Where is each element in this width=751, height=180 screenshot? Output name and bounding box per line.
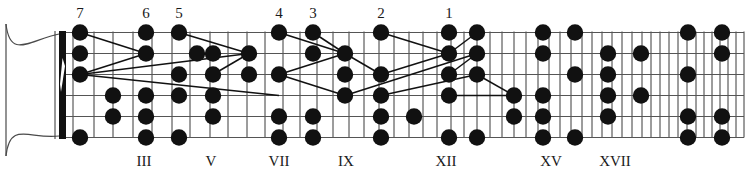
dot-s1-f15[interactable] [469,24,485,40]
note-dots-group [72,24,730,145]
dot-s2-f4[interactable] [138,45,154,61]
dot-s4-f20[interactable] [600,87,616,103]
link-g1 [381,33,449,54]
finger-number-labels: 7654321 [76,5,453,21]
dot-s5-f23[interactable] [680,108,696,124]
dot-s6-f19[interactable] [567,129,583,145]
dot-s6-f4[interactable] [138,129,154,145]
dot-s2-f18[interactable] [535,45,551,61]
dot-s5-f13[interactable] [406,108,422,124]
dot-s3-f5[interactable] [171,66,187,82]
finger-label-2: 2 [377,5,385,21]
dot-s2-f8[interactable] [241,45,257,61]
position-label-XII: XII [436,153,457,169]
dot-s3-f15[interactable] [469,66,485,82]
dot-s6-f23[interactable] [680,129,696,145]
dot-s3-f14[interactable] [441,66,457,82]
dot-s4-f11[interactable] [337,87,353,103]
dot-s2-f20[interactable] [600,45,616,61]
dot-s4-f21[interactable] [633,87,649,103]
dot-s3-f9[interactable] [271,66,287,82]
dot-s3-f7[interactable] [205,66,221,82]
position-label-XV: XV [540,153,562,169]
dot-s1-f5[interactable] [171,24,187,40]
dot-s6-f24[interactable] [714,129,730,145]
dot-s6-f10[interactable] [305,129,321,145]
dot-s2-f21[interactable] [633,45,649,61]
dot-s2-f10[interactable] [305,45,321,61]
dot-s1-f23[interactable] [680,24,696,40]
dot-s1-f1[interactable] [72,24,88,40]
finger-label-7: 7 [76,5,84,21]
dot-s4-f3[interactable] [105,87,121,103]
dot-s3-f1[interactable] [72,66,88,82]
dot-s3-f19[interactable] [567,66,583,82]
dot-s4-f7[interactable] [205,87,221,103]
connector-lines-group [80,33,514,96]
dot-s2-f15[interactable] [469,45,485,61]
dot-s3-f12[interactable] [373,66,389,82]
dot-s4-f14[interactable] [441,87,457,103]
link-i1 [381,75,477,96]
dot-s4-f4[interactable] [138,87,154,103]
dot-s6-f15[interactable] [469,129,485,145]
dot-s3-f23[interactable] [680,66,696,82]
finger-label-6: 6 [142,5,150,21]
dot-s2-f6[interactable] [189,45,205,61]
fret-position-labels: IIIVVIIIXXIIXVXVII [137,153,631,169]
dot-s1-f4[interactable] [138,24,154,40]
fretboard-diagram: 7654321 IIIVVIIIXXIIXVXVII [0,0,751,180]
dot-s1-f19[interactable] [567,24,583,40]
dot-s4-f17[interactable] [506,87,522,103]
position-label-V: V [206,153,217,169]
dot-s5-f18[interactable] [535,108,551,124]
dot-s2-f11[interactable] [337,45,353,61]
dot-s5-f24[interactable] [714,108,730,124]
dot-s2-f14[interactable] [441,45,457,61]
link-f1 [279,75,345,96]
dot-s6-f5[interactable] [171,129,187,145]
dot-s6-f1[interactable] [72,129,88,145]
dot-s3-f20[interactable] [600,66,616,82]
dot-s6-f18[interactable] [535,129,551,145]
dot-s5-f9[interactable] [271,108,287,124]
dot-s4-f5[interactable] [171,87,187,103]
dot-s5-f3[interactable] [105,108,121,124]
dot-s3-f11[interactable] [337,66,353,82]
finger-label-1: 1 [445,5,453,21]
link-g2 [381,54,449,75]
finger-label-5: 5 [175,5,183,21]
dot-s5-f17[interactable] [506,108,522,124]
dot-s6-f14[interactable] [441,129,457,145]
dot-s1-f12[interactable] [373,24,389,40]
headstock-outline [6,24,59,156]
dot-s5-f7[interactable] [205,108,221,124]
dot-s1-f14[interactable] [441,24,457,40]
dot-s6-f12[interactable] [373,129,389,145]
dot-s4-f18[interactable] [535,87,551,103]
dot-s2-f7[interactable] [205,45,221,61]
dot-s1-f9[interactable] [271,24,287,40]
position-label-III: III [137,153,152,169]
dot-s6-f9[interactable] [271,129,287,145]
position-label-XVII: XVII [599,153,631,169]
finger-label-4: 4 [275,5,283,21]
dot-s2-f24[interactable] [714,45,730,61]
dot-s1-f10[interactable] [305,24,321,40]
dot-s1-f18[interactable] [535,24,551,40]
finger-label-3: 3 [309,5,317,21]
dot-s3-f8[interactable] [241,66,257,82]
position-label-VII: VII [269,153,290,169]
dot-s5-f20[interactable] [600,108,616,124]
fretboard-canvas: 7654321 IIIVVIIIXXIIXVXVII [0,0,751,180]
link-c1 [80,54,249,75]
dot-s2-f1[interactable] [72,45,88,61]
dot-s1-f24[interactable] [714,24,730,40]
dot-s5-f4[interactable] [138,108,154,124]
dot-s4-f12[interactable] [373,87,389,103]
dot-s5-f10[interactable] [305,108,321,124]
dot-s5-f12[interactable] [373,108,389,124]
position-label-IX: IX [338,153,354,169]
nut [55,31,66,139]
